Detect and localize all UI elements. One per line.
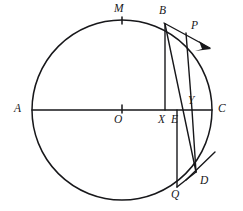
point-label-E: E xyxy=(171,114,178,126)
geometry-figure: A C M O B P X E Y D Q xyxy=(0,0,243,211)
point-label-M: M xyxy=(114,3,124,15)
point-label-A: A xyxy=(14,103,21,115)
point-label-P: P xyxy=(191,20,198,32)
point-label-B: B xyxy=(159,5,166,17)
point-label-Y: Y xyxy=(188,95,194,107)
point-label-Q: Q xyxy=(171,189,179,201)
point-label-D: D xyxy=(200,175,208,187)
tangent-arrow-b-icon xyxy=(195,41,211,51)
point-label-C: C xyxy=(218,103,226,115)
point-label-O: O xyxy=(114,114,122,126)
point-label-X: X xyxy=(158,114,165,126)
